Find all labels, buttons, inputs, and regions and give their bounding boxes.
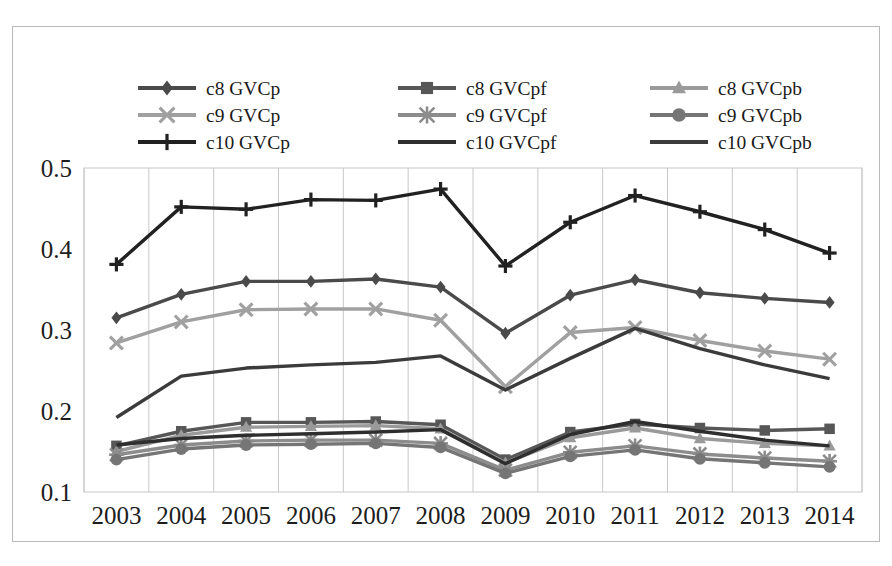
- data-point-marker-circle: [175, 443, 187, 455]
- data-point-marker-circle: [500, 467, 512, 479]
- data-point-marker-diamond: [306, 275, 316, 288]
- line-chart-canvas: 0.10.20.30.40.5 200320042005200620072008…: [0, 0, 892, 566]
- y-tick-label: 0.2: [41, 398, 72, 425]
- legend-item-c8-gvcpf[interactable]: c8 GVCpf: [398, 78, 547, 99]
- legend-item-c9-gvcpb[interactable]: c9 GVCpb: [650, 105, 802, 126]
- data-point-marker-diamond: [695, 286, 705, 299]
- legend-item-c10-gvcpf[interactable]: c10 GVCpf: [398, 132, 557, 153]
- data-point-marker-diamond: [565, 289, 575, 302]
- data-point-marker-diamond: [161, 81, 173, 96]
- data-point-marker-diamond: [825, 296, 835, 309]
- legend-item-c10-gvcp[interactable]: c10 GVCp: [138, 132, 290, 153]
- y-axis-tick-labels: 0.10.20.30.40.5: [41, 155, 73, 506]
- data-point-marker-circle: [435, 442, 447, 454]
- data-point-marker-circle: [305, 438, 317, 450]
- data-point-marker-circle: [672, 108, 686, 122]
- data-point-marker-diamond: [371, 273, 381, 286]
- legend-item-label: c8 GVCpb: [718, 78, 802, 99]
- y-tick-label: 0.5: [41, 155, 72, 182]
- legend-item-label: c8 GVCpf: [466, 78, 547, 99]
- x-tick-label: 2012: [675, 502, 725, 529]
- x-tick-label: 2003: [91, 502, 141, 529]
- data-point-marker-circle: [824, 461, 836, 473]
- legend-item-c10-gvcpb[interactable]: c10 GVCpb: [650, 132, 812, 153]
- chart-figure: 0.10.20.30.40.5 200320042005200620072008…: [0, 0, 892, 566]
- data-point-marker-circle: [694, 453, 706, 465]
- legend-item-c9-gvcp[interactable]: c9 GVCp: [138, 105, 280, 126]
- data-point-marker-square: [760, 425, 770, 435]
- data-point-marker-square: [824, 424, 834, 434]
- data-point-marker-diamond: [630, 273, 640, 286]
- x-tick-label: 2008: [416, 502, 466, 529]
- x-tick-label: 2006: [286, 502, 336, 529]
- data-point-marker-circle: [240, 439, 252, 451]
- legend-item-label: c10 GVCp: [206, 132, 290, 153]
- data-point-marker-circle: [370, 438, 382, 450]
- x-tick-label: 2011: [611, 502, 660, 529]
- x-axis-tick-labels: 2003200420052006200720082009201020112012…: [91, 502, 855, 529]
- legend-item-c8-gvcpb[interactable]: c8 GVCpb: [650, 78, 802, 99]
- legend-item-label: c10 GVCpb: [718, 132, 812, 153]
- x-tick-label: 2005: [221, 502, 271, 529]
- x-tick-label: 2010: [545, 502, 595, 529]
- data-point-marker-circle: [759, 457, 771, 469]
- x-tick-label: 2014: [805, 502, 856, 529]
- chart-legend: c8 GVCpc8 GVCpfc8 GVCpbc9 GVCpc9 GVCpfc9…: [138, 78, 812, 153]
- data-point-marker-circle: [629, 444, 641, 456]
- x-tick-label: 2013: [740, 502, 790, 529]
- legend-item-label: c9 GVCpb: [718, 105, 802, 126]
- legend-item-c8-gvcp[interactable]: c8 GVCp: [138, 78, 280, 99]
- y-tick-label: 0.3: [41, 317, 72, 344]
- y-tick-label: 0.1: [41, 479, 72, 506]
- legend-item-label: c9 GVCp: [206, 105, 280, 126]
- y-tick-label: 0.4: [41, 236, 73, 263]
- data-point-marker-circle: [564, 450, 576, 462]
- data-point-marker-diamond: [111, 311, 121, 324]
- data-point-marker-diamond: [241, 275, 251, 288]
- x-tick-label: 2009: [480, 502, 530, 529]
- legend-item-c9-gvcpf[interactable]: c9 GVCpf: [398, 105, 547, 126]
- legend-item-label: c9 GVCpf: [466, 105, 547, 126]
- data-point-marker-diamond: [760, 292, 770, 305]
- x-tick-label: 2007: [351, 502, 401, 529]
- data-point-marker-circle: [111, 454, 123, 466]
- legend-item-label: c10 GVCpf: [466, 132, 557, 153]
- legend-item-label: c8 GVCp: [206, 78, 280, 99]
- x-tick-label: 2004: [156, 502, 207, 529]
- data-point-marker-diamond: [176, 288, 186, 301]
- data-point-marker-square: [421, 82, 433, 94]
